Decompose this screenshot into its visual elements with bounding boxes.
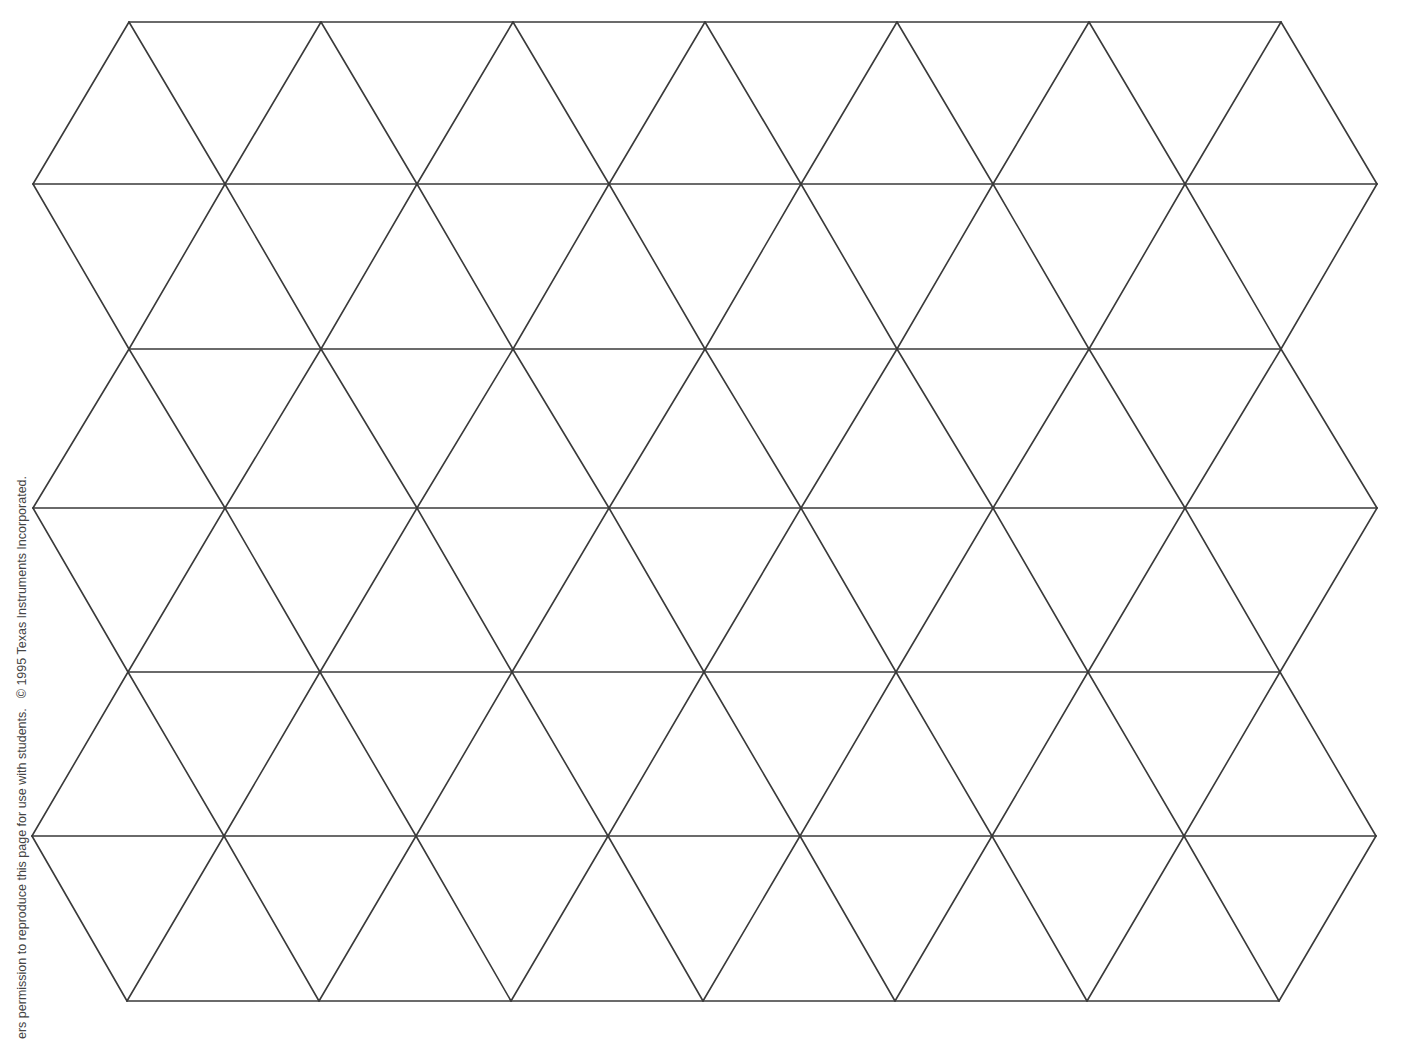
grid-diagonal-line	[703, 836, 800, 1001]
grid-diagonal-line	[319, 836, 416, 1001]
grid-diagonal-line	[992, 836, 1087, 1001]
grid-diagonal-line	[32, 672, 128, 836]
grid-diagonal-line	[321, 184, 417, 349]
grid-diagonal-line	[1185, 22, 1281, 184]
grid-diagonal-line	[225, 22, 321, 184]
grid-diagonal-line	[704, 508, 801, 672]
grid-diagonal-line	[1087, 836, 1184, 1001]
grid-diagonal-line	[416, 836, 511, 1001]
grid-diagonal-line	[609, 349, 705, 508]
grid-diagonal-line	[33, 349, 129, 508]
grid-diagonal-line	[801, 349, 897, 508]
grid-diagonal-line	[128, 672, 224, 836]
grid-diagonal-line	[1089, 349, 1185, 508]
grid-diagonal-line	[801, 508, 896, 672]
grid-diagonal-line	[896, 672, 992, 836]
grid-diagonal-line	[1281, 349, 1377, 508]
grid-diagonal-line	[129, 22, 225, 184]
grid-diagonal-line	[513, 184, 609, 349]
grid-diagonal-line	[1089, 184, 1185, 349]
grid-diagonal-line	[321, 349, 417, 508]
grid-diagonal-line	[1280, 508, 1377, 672]
grid-diagonal-line	[705, 184, 801, 349]
grid-diagonal-line	[225, 184, 321, 349]
grid-diagonal-line	[800, 672, 896, 836]
grid-diagonal-line	[417, 349, 513, 508]
grid-diagonal-line	[1280, 672, 1376, 836]
grid-diagonal-line	[1088, 672, 1184, 836]
grid-diagonal-line	[417, 22, 513, 184]
grid-diagonal-line	[512, 508, 609, 672]
grid-diagonal-line	[897, 349, 993, 508]
grid-diagonal-line	[33, 22, 129, 184]
grid-diagonal-line	[320, 672, 416, 836]
grid-diagonal-line	[33, 508, 128, 672]
grid-diagonal-line	[801, 184, 897, 349]
grid-diagonal-line	[1088, 508, 1185, 672]
grid-diagonal-line	[225, 349, 321, 508]
grid-diagonal-line	[1279, 836, 1376, 1001]
grid-diagonal-line	[321, 22, 417, 184]
grid-diagonal-line	[33, 184, 129, 349]
grid-diagonal-line	[1281, 22, 1377, 184]
grid-diagonal-line	[705, 22, 801, 184]
grid-diagonal-line	[1089, 22, 1185, 184]
grid-diagonal-line	[416, 672, 512, 836]
grid-diagonal-line	[1184, 672, 1280, 836]
copyright-text: © 1995 Texas Instruments Incorporated.	[16, 476, 29, 698]
triangle-grid	[0, 0, 1401, 1040]
grid-diagonal-line	[1185, 184, 1281, 349]
grid-diagonal-line	[511, 836, 608, 1001]
grid-diagonal-line	[32, 836, 127, 1001]
grid-diagonal-line	[1184, 836, 1279, 1001]
grid-diagonal-line	[993, 508, 1088, 672]
grid-diagonal-line	[609, 508, 704, 672]
grid-diagonal-line	[512, 672, 608, 836]
grid-diagonal-line	[128, 508, 225, 672]
grid-diagonal-line	[127, 836, 224, 1001]
grid-diagonal-line	[608, 836, 703, 1001]
permission-text: ers permission to reproduce this page fo…	[16, 708, 29, 1039]
grid-diagonal-line	[896, 508, 993, 672]
grid-diagonal-line	[320, 508, 417, 672]
grid-diagonal-line	[1185, 349, 1281, 508]
grid-diagonal-line	[608, 672, 704, 836]
grid-diagonal-line	[897, 22, 993, 184]
grid-diagonal-line	[513, 349, 609, 508]
grid-diagonal-line	[1185, 508, 1280, 672]
grid-diagonal-line	[993, 184, 1089, 349]
grid-diagonal-line	[609, 22, 705, 184]
grid-diagonal-line	[129, 184, 225, 349]
grid-diagonal-line	[895, 836, 992, 1001]
grid-diagonal-line	[993, 349, 1089, 508]
grid-diagonal-line	[705, 349, 801, 508]
grid-diagonal-line	[129, 349, 225, 508]
grid-diagonal-line	[417, 508, 512, 672]
grid-diagonal-line	[225, 508, 320, 672]
grid-diagonal-line	[897, 184, 993, 349]
grid-diagonal-line	[992, 672, 1088, 836]
grid-diagonal-line	[1281, 184, 1377, 349]
grid-diagonal-line	[224, 672, 320, 836]
grid-diagonal-line	[513, 22, 609, 184]
worksheet-page: ers permission to reproduce this page fo…	[0, 0, 1401, 1040]
grid-diagonal-line	[801, 22, 897, 184]
grid-diagonal-line	[800, 836, 895, 1001]
grid-diagonal-line	[417, 184, 513, 349]
grid-diagonal-line	[704, 672, 800, 836]
grid-diagonal-line	[993, 22, 1089, 184]
grid-diagonal-line	[224, 836, 319, 1001]
grid-diagonal-line	[609, 184, 705, 349]
copyright-notice: ers permission to reproduce this page fo…	[16, 476, 29, 1039]
